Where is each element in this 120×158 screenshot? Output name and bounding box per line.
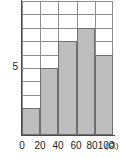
x-tick-label-60: 60 <box>68 140 84 151</box>
histogram-bar <box>77 28 95 135</box>
gridline-horizontal <box>22 1 113 2</box>
histogram-bar <box>40 68 58 135</box>
x-axis-unit-label: (点) <box>105 141 118 151</box>
plot-area <box>22 1 113 135</box>
x-tick-label-40: 40 <box>50 140 66 151</box>
histogram-bar <box>58 41 77 135</box>
x-tick-label-0: 0 <box>15 140 29 151</box>
y-axis-line <box>21 0 22 136</box>
x-tick-label-20: 20 <box>32 140 48 151</box>
x-axis-line <box>21 135 115 136</box>
histogram-chart: 5 0 20 40 60 80 100 (点) <box>0 0 120 158</box>
histogram-bar <box>22 108 40 135</box>
gridline-horizontal <box>22 28 113 29</box>
gridline-horizontal <box>22 14 113 15</box>
y-tick-label-5: 5 <box>4 62 18 72</box>
histogram-bar <box>95 55 113 135</box>
